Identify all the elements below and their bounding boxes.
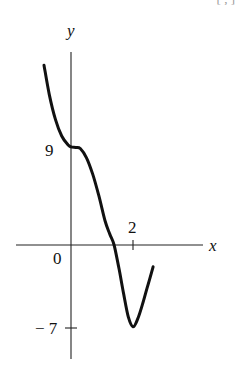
y-tick-label-9: 9	[45, 141, 54, 160]
function-graph: y x 0 9 2 − 7	[0, 0, 235, 383]
x-axis-label: x	[208, 236, 217, 255]
origin-label: 0	[53, 249, 62, 268]
x-tick-label-2: 2	[128, 218, 137, 237]
y-axis-label: y	[65, 21, 75, 40]
y-tick-label-neg7: − 7	[35, 319, 58, 338]
function-curve	[44, 65, 153, 327]
